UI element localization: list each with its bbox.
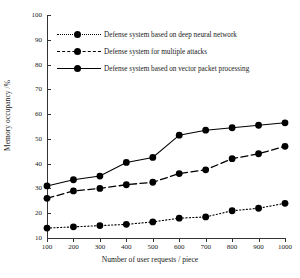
data-point-marker <box>70 176 77 183</box>
data-point-marker <box>96 185 103 192</box>
data-point-marker <box>202 214 209 221</box>
data-point-marker <box>96 173 103 180</box>
data-point-marker <box>44 195 51 202</box>
series-1 <box>44 143 289 202</box>
data-point-marker <box>282 200 289 207</box>
y-tick-label: 60 <box>22 110 42 118</box>
data-point-marker <box>176 170 183 177</box>
y-tick-label: 30 <box>22 184 42 192</box>
legend-sample <box>57 30 101 40</box>
series-line <box>47 146 285 198</box>
legend-sample <box>57 64 101 74</box>
series-line <box>47 123 285 186</box>
data-point-marker <box>176 215 183 222</box>
data-point-marker <box>123 159 130 166</box>
x-tick-mark <box>232 238 233 242</box>
y-tick-label: 40 <box>22 160 42 168</box>
data-point-marker <box>123 221 130 228</box>
x-axis-line <box>47 238 286 239</box>
y-tick-label: 90 <box>22 36 42 44</box>
x-tick-mark <box>206 238 207 242</box>
data-point-marker <box>229 124 236 131</box>
data-point-marker <box>282 119 289 126</box>
data-point-marker <box>70 223 77 230</box>
data-point-marker <box>44 225 51 232</box>
x-tick-mark <box>100 238 101 242</box>
x-tick-label: 100 <box>35 243 59 251</box>
x-tick-mark <box>153 238 154 242</box>
x-tick-label: 600 <box>167 243 191 251</box>
x-tick-label: 200 <box>61 243 85 251</box>
x-tick-mark <box>285 238 286 242</box>
x-tick-label: 400 <box>114 243 138 251</box>
legend-marker-icon <box>74 48 81 55</box>
legend-item-0[interactable]: Defense system based on deep neural netw… <box>57 26 282 43</box>
x-tick-label: 700 <box>194 243 218 251</box>
data-point-marker <box>255 150 262 157</box>
y-tick-label: 70 <box>22 85 42 93</box>
data-point-marker <box>229 155 236 162</box>
data-point-marker <box>176 132 183 139</box>
legend-marker-icon <box>74 31 81 38</box>
x-tick-label: 1000 <box>273 243 297 251</box>
data-point-marker <box>255 205 262 212</box>
data-point-marker <box>149 179 156 186</box>
y-tick-label: 50 <box>22 135 42 143</box>
x-tick-label: 900 <box>247 243 271 251</box>
data-point-marker <box>70 188 77 195</box>
data-point-marker <box>255 122 262 129</box>
data-point-marker <box>149 154 156 161</box>
x-tick-label: 800 <box>220 243 244 251</box>
chart-legend: Defense system based on deep neural netw… <box>57 26 282 77</box>
series-0 <box>44 200 289 232</box>
line-chart: Memory occupancy /% 10090807060504030201… <box>0 0 300 278</box>
x-tick-label: 300 <box>88 243 112 251</box>
x-tick-mark <box>73 238 74 242</box>
legend-label: Defense system based on deep neural netw… <box>101 31 237 39</box>
x-axis-title: Number of user requests / piece <box>0 255 300 264</box>
legend-item-2[interactable]: Defense system based on vector packet pr… <box>57 60 282 77</box>
legend-marker-icon <box>74 65 81 72</box>
data-point-marker <box>229 207 236 214</box>
y-axis-title-text: Memory occupancy /% <box>3 80 12 151</box>
y-tick-label: 20 <box>22 209 42 217</box>
data-point-marker <box>96 222 103 229</box>
x-axis-title-text: Number of user requests / piece <box>102 255 198 264</box>
x-tick-mark <box>126 238 127 242</box>
data-point-marker <box>202 127 209 134</box>
x-tick-mark <box>259 238 260 242</box>
x-tick-mark <box>47 238 48 242</box>
data-point-marker <box>123 181 130 188</box>
legend-label: Defense system based on vector packet pr… <box>101 65 249 73</box>
y-tick-label: 100 <box>22 11 42 19</box>
y-axis-title: Memory occupancy /% <box>0 0 14 230</box>
legend-item-1[interactable]: Defense system for multiple attacks <box>57 43 282 60</box>
data-point-marker <box>202 166 209 173</box>
data-point-marker <box>44 183 51 190</box>
legend-label: Defense system for multiple attacks <box>101 48 207 56</box>
y-tick-label: 10 <box>22 234 42 242</box>
x-tick-label: 500 <box>141 243 165 251</box>
legend-sample <box>57 47 101 57</box>
series-line <box>47 203 285 228</box>
data-point-marker <box>282 143 289 150</box>
data-point-marker <box>149 218 156 225</box>
y-tick-label: 80 <box>22 61 42 69</box>
series-2 <box>44 119 289 189</box>
x-tick-mark <box>179 238 180 242</box>
